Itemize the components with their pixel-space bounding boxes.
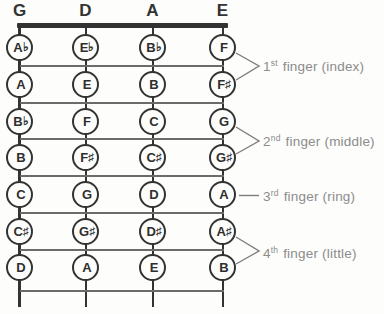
- finger-label-4th: 4th finger (little): [263, 245, 357, 262]
- finger-text: finger (index): [279, 59, 365, 74]
- finger-text: finger (middle): [282, 134, 375, 149]
- finger-label-1st: 1st finger (index): [263, 58, 364, 75]
- finger-ordinal-suffix: st: [271, 58, 278, 68]
- finger-bracket-lines: [0, 0, 384, 314]
- violin-fingering-chart: G D A E A♭ A B♭ B C C♯ D E♭ E F F♯ G G♯ …: [0, 0, 384, 314]
- finger-ordinal-suffix: nd: [271, 133, 281, 143]
- finger-ordinal: 3: [263, 189, 271, 204]
- finger-ordinal: 4: [263, 246, 271, 261]
- finger-label-3rd: 3rd finger (ring): [263, 188, 355, 205]
- finger-ordinal: 2: [263, 134, 271, 149]
- finger-ordinal-suffix: th: [271, 245, 279, 255]
- finger-text: finger (little): [279, 246, 356, 261]
- finger-ordinal: 1: [263, 59, 271, 74]
- finger-text: finger (ring): [280, 189, 356, 204]
- finger-label-2nd: 2nd finger (middle): [263, 133, 375, 150]
- finger-ordinal-suffix: rd: [271, 188, 279, 198]
